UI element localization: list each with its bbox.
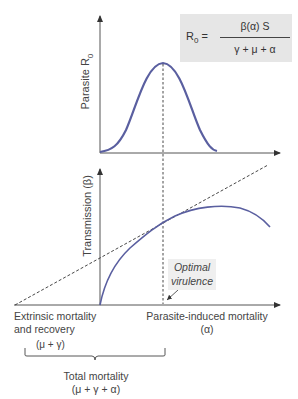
- extrinsic-label-line-2: and recovery: [14, 323, 96, 336]
- parasite-label-line-2: (α): [142, 323, 272, 336]
- callout-line-1: Optimal: [168, 260, 216, 274]
- formula-fraction-bar: [220, 37, 290, 38]
- parasite-r0-text: Parasite R: [79, 58, 91, 109]
- callout-arrow: [167, 290, 178, 300]
- r0-formula-box: R0 = β(α) S γ + μ + α: [180, 14, 292, 62]
- parasite-r0-subscript: 0: [86, 54, 95, 58]
- extrinsic-mortality-label: Extrinsic mortality and recovery: [14, 310, 96, 336]
- mu-gamma-label: (μ + γ): [36, 339, 65, 350]
- formula-numerator: β(α) S: [220, 20, 290, 32]
- total-mortality-label: Total mortality (μ + γ + α): [50, 370, 142, 396]
- formula-r: R: [186, 30, 194, 42]
- tangent-dashed-line: [15, 165, 268, 305]
- parasite-mortality-label: Parasite-induced mortality (α): [142, 310, 272, 336]
- r0-bell-curve: [100, 63, 217, 152]
- total-mortality-line-1: Total mortality: [50, 370, 142, 383]
- optimal-virulence-callout: Optimal virulence: [168, 259, 216, 290]
- total-mortality-line-2: (μ + γ + α): [50, 383, 142, 396]
- formula-denominator: γ + μ + α: [220, 43, 290, 55]
- formula-lhs: R0 =: [186, 30, 208, 45]
- parasite-r0-axis-label: Parasite R0: [79, 42, 94, 122]
- transmission-axis-label: Transmission (β): [81, 166, 93, 266]
- transmission-curve: [100, 206, 270, 305]
- parasite-label-line-1: Parasite-induced mortality: [142, 310, 272, 323]
- extrinsic-label-line-1: Extrinsic mortality: [14, 310, 96, 323]
- callout-line-2: virulence: [168, 274, 216, 288]
- formula-equals: =: [198, 30, 207, 42]
